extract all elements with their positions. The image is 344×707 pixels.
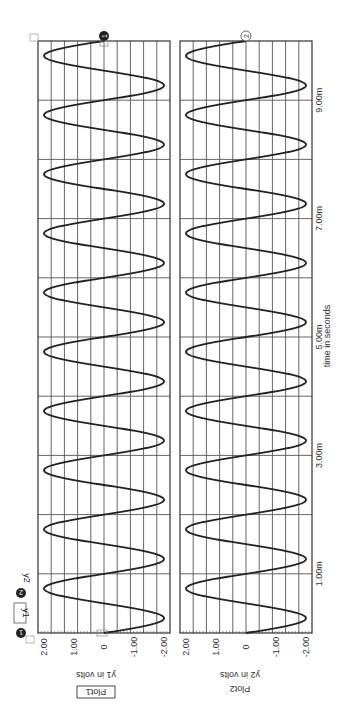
y-tick-label: -2.00 [301,637,311,658]
x-tick-label: 1.00m [314,561,324,586]
y-tick-label: 2.00 [39,638,49,656]
plot2-y-tick-labels: 2.001.000-1.00-2.00 [181,637,311,658]
zoom-corner-handle-bottom[interactable] [26,636,34,643]
plot2-panel: 2.001.000-1.00-2.00 [180,41,312,657]
x-tick-label: 9.00m [314,88,324,113]
plot1-y-tick-labels: 2.001.000-1.00-2.00 [39,637,169,658]
marker-1-number: 1 [19,629,23,636]
legend-y1-label: y1 [21,608,31,618]
x-axis-title: time in seconds [322,304,332,367]
legend: 1 y1 2 y2 [14,34,38,643]
legend-item-y1[interactable]: 1 y1 [14,603,31,638]
zoom-corner-handle-top[interactable] [30,34,38,41]
cursor-1-label: 1 [101,34,108,38]
y-tick-label: -2.00 [159,637,169,658]
y-tick-label: 1.00 [69,638,79,656]
y-tick-label: -1.00 [129,637,139,658]
y-tick-label: 0 [241,644,251,649]
y-tick-label: 1.00 [211,638,221,656]
x-tick-label: 3.00m [314,443,324,468]
chart-canvas: 2.001.000-1.00-2.00 2.001.000-1.00-2.00 … [0,0,344,707]
legend-y2-label: y2 [22,573,32,583]
marker-2-number: 2 [19,589,23,596]
y-tick-label: 2.00 [181,638,191,656]
x-tick-label: 7.00m [314,206,324,231]
plot1-ylabel: y1 in volts [75,670,116,680]
y-tick-label: -1.00 [271,637,281,658]
plot2-ylabel: y2 in volts [219,670,260,680]
cursor-2-label: 2 [243,34,250,38]
plot1-panel: 2.001.000-1.00-2.00 [38,41,170,657]
plot2-title: Plot2 [230,684,251,694]
cursor-2[interactable]: 2 [241,31,251,41]
y-tick-label: 0 [99,644,109,649]
legend-item-y2[interactable]: 2 y2 [16,573,32,598]
plot1-title: Plot1 [86,687,107,697]
